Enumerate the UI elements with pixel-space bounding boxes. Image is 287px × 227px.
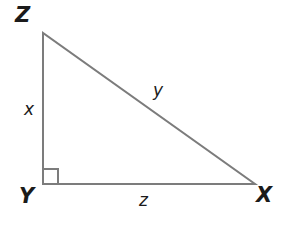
side-label-leg-horizontal: z: [139, 192, 148, 209]
side-label-leg-vertical: x: [24, 101, 34, 118]
geometry-figure: Z Y X x y z: [0, 0, 287, 227]
triangle-shape: [43, 33, 255, 184]
vertex-label-x: X: [256, 185, 272, 206]
vertex-label-z: Z: [15, 5, 30, 26]
side-label-hypotenuse: y: [153, 82, 163, 99]
right-angle-marker-icon: [43, 169, 58, 184]
vertex-label-y: Y: [19, 186, 34, 207]
